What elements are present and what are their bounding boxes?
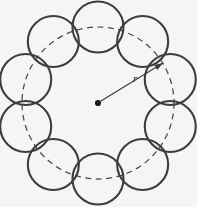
rosette-figure: r [0,0,197,207]
radius-arrow-line [101,63,163,101]
rosette-petal-circle [117,16,168,67]
radius-label: r [133,72,138,84]
rosette-petal-circle [117,139,168,190]
figure-container: r [0,0,197,207]
rosette-petal-circle [0,54,51,105]
center-point-dot [95,100,101,106]
rosette-petal-circle [28,139,79,190]
